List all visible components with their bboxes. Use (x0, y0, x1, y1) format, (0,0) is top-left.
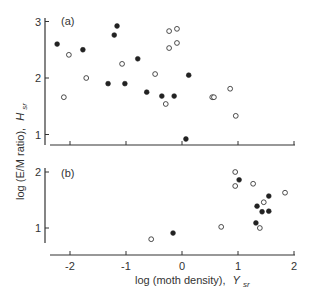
filled-data-point (55, 42, 60, 47)
filled-data-point (266, 209, 271, 214)
filled-data-point (112, 33, 117, 38)
x-axis-title: log (moth density), Y sr (135, 274, 250, 289)
x-axis-title-main: log (moth density), (135, 274, 225, 286)
filled-data-point (144, 90, 149, 95)
open-data-point (120, 61, 125, 66)
filled-data-point (254, 221, 259, 226)
open-data-point (175, 41, 180, 46)
filled-data-point (80, 47, 85, 52)
open-data-point (233, 113, 238, 118)
filled-data-point (159, 94, 164, 99)
x-tick-label: 0 (179, 260, 185, 272)
filled-data-point (255, 204, 260, 209)
filled-data-point (135, 56, 140, 61)
y-axis-title-main: log (E/M ratio), (14, 128, 26, 200)
y-tick-label: 2 (35, 72, 41, 84)
filled-data-point (260, 209, 265, 214)
panel-b-label: (b) (61, 167, 74, 179)
open-data-point (153, 72, 158, 77)
open-data-point (212, 95, 217, 100)
filled-data-point (106, 81, 111, 86)
open-data-point (251, 181, 256, 186)
open-data-point (228, 86, 233, 91)
x-tick-label: 2 (291, 260, 297, 272)
axes-a: 123 (35, 16, 295, 146)
open-data-point (233, 170, 238, 175)
x-axis-title-var: Y (233, 274, 241, 286)
y-tick-label: 2 (35, 166, 41, 178)
x-tick-label: 1 (235, 260, 241, 272)
open-data-point (261, 200, 266, 205)
open-data-point (175, 26, 180, 31)
y-tick-label: 1 (35, 129, 41, 141)
axes-b: 12-2-1012 (35, 166, 297, 272)
points-b (149, 170, 288, 242)
open-data-point (66, 52, 71, 57)
filled-data-point (122, 81, 127, 86)
x-axis-title-sub: sr (243, 280, 250, 289)
open-data-point (233, 184, 238, 189)
panel-a-label: (a) (61, 15, 74, 27)
filled-data-point (184, 137, 189, 142)
open-data-point (167, 29, 172, 34)
filled-data-point (266, 194, 271, 199)
y-axis-title: log (E/M ratio), H sr (14, 103, 29, 200)
open-data-point (149, 237, 154, 242)
open-data-point (219, 224, 224, 229)
points-a (55, 24, 238, 142)
open-data-point (257, 226, 262, 231)
filled-data-point (237, 177, 242, 182)
open-data-point (84, 76, 89, 81)
x-tick-label: -1 (121, 260, 131, 272)
figure: 123 (a) 12-2-1012 (b) log (E/M ratio), H… (0, 0, 309, 297)
filled-data-point (186, 73, 191, 78)
open-data-point (283, 190, 288, 195)
filled-data-point (171, 231, 176, 236)
y-tick-label: 3 (35, 16, 41, 28)
y-axis-title-sub: sr (20, 103, 29, 110)
panel-b: 12-2-1012 (b) (35, 166, 297, 272)
x-tick-label: -2 (65, 260, 75, 272)
y-tick-label: 1 (35, 222, 41, 234)
open-data-point (163, 102, 168, 107)
panel-a: 123 (a) (35, 15, 295, 145)
open-data-point (167, 46, 172, 51)
filled-data-point (115, 24, 120, 29)
open-data-point (61, 95, 66, 100)
y-axis-title-var: H (14, 113, 26, 121)
filled-data-point (172, 94, 177, 99)
